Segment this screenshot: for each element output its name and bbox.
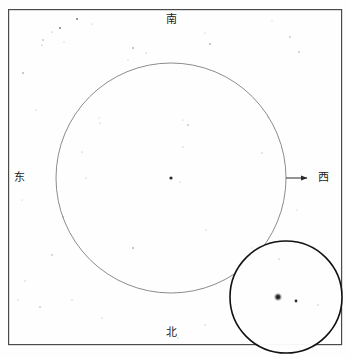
star-point (204, 324, 205, 325)
star-point (209, 43, 211, 45)
star-point (71, 299, 72, 300)
star-point (35, 109, 36, 110)
star-point (51, 31, 52, 32)
star-point (99, 118, 100, 119)
star-point (101, 317, 102, 318)
inset-circle (230, 241, 342, 353)
star-point (252, 248, 253, 249)
cardinal-label-west: 西 (318, 172, 329, 183)
star-point (76, 18, 78, 20)
star-point (289, 36, 290, 37)
star-point (41, 44, 42, 45)
star-chart-plate: 南 东 西 北 (0, 0, 350, 358)
star-point (183, 120, 184, 121)
star-point (187, 124, 188, 125)
inset-fuzzy-star-core (276, 295, 280, 299)
star-point (261, 152, 262, 153)
star-point (205, 229, 206, 230)
star-point (39, 306, 40, 307)
inset-companion-star (295, 300, 298, 303)
star-point (179, 181, 180, 182)
star-point (59, 27, 61, 29)
star-point (132, 247, 134, 249)
star-point (42, 39, 43, 40)
inset-faint-star-a (278, 258, 279, 259)
star-point (81, 151, 82, 152)
star-point (22, 200, 23, 201)
star-point (85, 177, 86, 178)
star-point (297, 210, 298, 211)
star-point (64, 42, 65, 43)
star-point (128, 60, 129, 61)
star-point (132, 47, 134, 49)
star-point (145, 52, 146, 53)
star-point (92, 24, 93, 25)
cardinal-label-east: 东 (14, 172, 25, 183)
cardinal-label-north: 北 (166, 327, 177, 338)
inset-faint-star-b (317, 304, 318, 305)
star-point (205, 33, 206, 34)
star-point (99, 122, 100, 123)
star-point (22, 72, 24, 74)
star-point (177, 337, 178, 338)
chart-canvas (0, 0, 350, 358)
star-point (24, 280, 25, 281)
cardinal-label-south: 南 (166, 14, 177, 25)
star-point (182, 146, 183, 147)
main-center-star (169, 176, 172, 179)
star-point (18, 300, 19, 301)
star-point (298, 51, 299, 52)
star-point (272, 21, 273, 22)
star-point (51, 254, 52, 255)
